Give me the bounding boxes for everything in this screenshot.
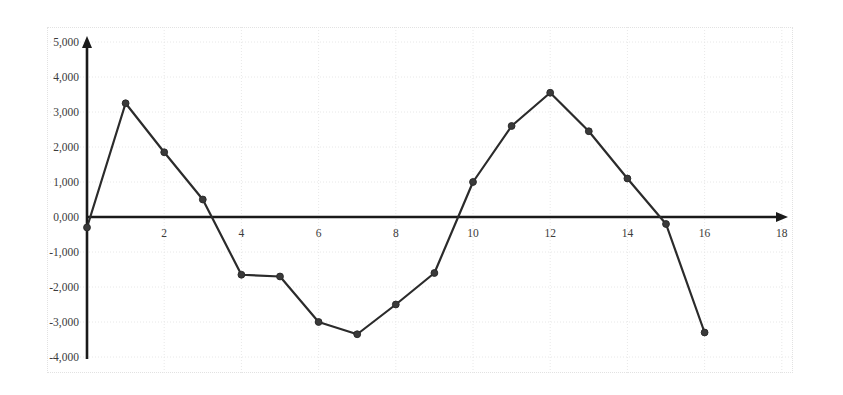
data-point-marker	[122, 100, 129, 107]
x-axis-tick-label: 14	[607, 227, 647, 239]
y-axis-tick-label: 5,000	[53, 36, 79, 48]
x-axis-tick-label: 6	[299, 227, 339, 239]
data-point-marker	[161, 149, 168, 156]
y-axis-tick-label: -4,000	[49, 351, 79, 363]
x-axis-tick-label: 18	[762, 227, 802, 239]
data-point-marker	[585, 128, 592, 135]
data-point-marker	[199, 196, 206, 203]
y-axis-tick-label: 3,000	[53, 106, 79, 118]
data-point-marker	[431, 270, 438, 277]
data-point-marker	[277, 273, 284, 280]
y-axis-tick-label: 1,000	[53, 176, 79, 188]
data-point-marker	[547, 89, 554, 96]
data-point-marker	[470, 179, 477, 186]
y-axis-tick-label: -2,000	[49, 281, 79, 293]
y-axis-tick-label: -3,000	[49, 316, 79, 328]
y-axis-tick-label: -1,000	[49, 246, 79, 258]
y-axis-tick-label: 4,000	[53, 71, 79, 83]
data-point-marker	[238, 271, 245, 278]
x-axis-tick-label: 16	[685, 227, 725, 239]
gridlines	[47, 27, 793, 373]
y-axis-tick-label: 2,000	[53, 141, 79, 153]
data-point-marker	[354, 331, 361, 338]
x-axis-tick-label: 4	[221, 227, 261, 239]
y-axis-tick-label: 0,000	[53, 211, 79, 223]
data-point-marker	[84, 224, 91, 231]
data-point-marker	[624, 175, 631, 182]
data-point-marker	[508, 123, 515, 130]
x-axis-tick-label: 8	[376, 227, 416, 239]
x-axis-tick-label: 10	[453, 227, 493, 239]
axes	[82, 36, 788, 359]
chart-container: 5,0004,0003,0002,0001,0000,000-1,000-2,0…	[0, 0, 843, 395]
line-chart-canvas	[0, 0, 843, 395]
data-point-marker	[392, 301, 399, 308]
data-point-marker	[701, 329, 708, 336]
x-axis-tick-label: 12	[530, 227, 570, 239]
x-axis-tick-label: 2	[144, 227, 184, 239]
data-point-marker	[315, 319, 322, 326]
data-point-marker	[663, 221, 670, 228]
